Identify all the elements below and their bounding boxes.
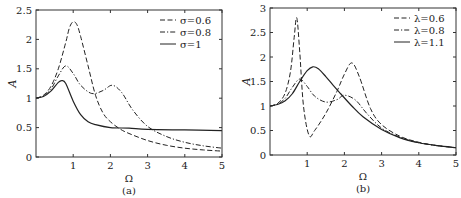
y-tick-label: 3 xyxy=(260,3,266,14)
y-tick-label: 2 xyxy=(260,52,266,63)
subplot-caption: (b) xyxy=(356,183,370,194)
series-line xyxy=(36,66,222,148)
subplot-a: 1234500.511.522.5ΩA(a)σ=0.6σ=0.8σ=1 xyxy=(6,5,225,197)
x-tick-label: 4 xyxy=(182,160,188,171)
y-tick-label: 2.5 xyxy=(250,27,266,38)
subplot-caption: (a) xyxy=(122,185,136,196)
y-tick-label: 1 xyxy=(260,101,266,112)
x-tick-label: 3 xyxy=(378,158,384,169)
x-tick-label: 3 xyxy=(144,160,150,171)
legend-label: λ=0.8 xyxy=(414,25,445,36)
y-tick-label: 0 xyxy=(260,150,266,161)
y-tick-label: 0 xyxy=(26,152,32,163)
y-tick-label: 2.5 xyxy=(16,5,32,16)
series-line xyxy=(270,67,456,148)
x-tick-label: 2 xyxy=(341,158,347,169)
y-axis-label: A xyxy=(6,79,19,88)
y-tick-label: 0.5 xyxy=(16,122,32,133)
x-tick-label: 5 xyxy=(453,158,459,169)
series-line xyxy=(36,80,222,130)
legend-label: σ=0.8 xyxy=(180,27,211,38)
y-axis-label: A xyxy=(240,77,253,86)
y-tick-label: 1 xyxy=(26,93,32,104)
legend-label: σ=1 xyxy=(180,39,202,50)
y-tick-label: 1.5 xyxy=(16,63,32,74)
legend-label: σ=0.6 xyxy=(180,15,211,26)
series-line xyxy=(270,79,456,148)
y-tick-label: 0.5 xyxy=(250,125,266,136)
x-axis-label: Ω xyxy=(359,171,367,182)
legend-label: λ=1.1 xyxy=(414,37,445,48)
x-tick-label: 4 xyxy=(416,158,422,169)
x-tick-label: 5 xyxy=(219,160,225,171)
subplot-b: 1234500.511.522.53ΩA(b)λ=0.6λ=0.8λ=1.1 xyxy=(240,3,459,195)
x-axis-label: Ω xyxy=(125,173,133,184)
x-tick-label: 2 xyxy=(107,160,113,171)
figure: 1234500.511.522.5ΩA(a)σ=0.6σ=0.8σ=112345… xyxy=(0,0,461,198)
y-tick-label: 2 xyxy=(26,34,32,45)
legend-label: λ=0.6 xyxy=(414,13,445,24)
x-tick-label: 1 xyxy=(70,160,76,171)
x-tick-label: 1 xyxy=(304,158,310,169)
